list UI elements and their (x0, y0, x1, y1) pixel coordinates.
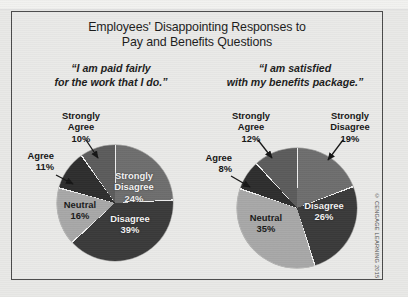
callout-value: 11% (8, 161, 54, 172)
callout-value: 8% (186, 163, 232, 174)
callout-value: 12% (222, 133, 280, 144)
callout-value: 10% (52, 133, 110, 144)
callout-text-1: Agree (186, 152, 232, 163)
leader-lines-benefits (200, 0, 390, 297)
slice-label-strongly-disagree: Strongly Disagree 24% (105, 170, 163, 204)
callout-strongly-disagree: Strongly Disagree 19% (319, 110, 381, 144)
callout-strongly-agree: Strongly Agree 12% (222, 110, 280, 144)
pie-chart-benefits: “I am satisfied with my benefits package… (200, 0, 390, 297)
leader-agree (231, 176, 250, 187)
callout-text-2: Agree (52, 121, 110, 132)
slice-label-value: 35% (240, 223, 292, 234)
slice-label-value: 24% (105, 193, 163, 204)
callout-value: 19% (319, 133, 381, 144)
slice-label-neutral: Neutral 35% (240, 212, 292, 235)
pie-chart-pay-plot: Strongly Disagree 24% Disagree 39% Neutr… (16, 0, 206, 297)
callout-text-1: Strongly (222, 110, 280, 121)
pie-chart-pay: “I am paid fairly for the work that I do… (16, 0, 206, 297)
callout-agree: Agree 8% (186, 152, 232, 175)
callout-strongly-agree: Strongly Agree 10% (52, 110, 110, 144)
slice-label-text-1: Disagree (101, 213, 159, 224)
callout-text-1: Agree (8, 150, 54, 161)
slice-label-value: 16% (58, 210, 102, 221)
leader-agree (56, 175, 73, 184)
callout-text-1: Strongly (52, 110, 110, 121)
slice-label-value: 39% (101, 224, 159, 235)
callout-text-1: Strongly (319, 110, 381, 121)
pie-chart-benefits-plot: Disagree 26% Neutral 35% Agree 8% Strong… (200, 0, 390, 297)
callout-text-2: Agree (222, 121, 280, 132)
slice-label-text-1: Disagree (295, 200, 353, 211)
callout-agree: Agree 11% (8, 150, 54, 173)
slice-label-text-1: Neutral (58, 199, 102, 210)
copyright-credit: © CENGAGE LEARNING 2015 (366, 193, 380, 277)
slice-label-text-1: Neutral (240, 212, 292, 223)
slice-label-text-2: Disagree (105, 181, 163, 192)
figure-root: Employees' Disappointing Responses to Pa… (0, 0, 408, 297)
slice-label-value: 26% (295, 211, 353, 222)
slice-label-neutral: Neutral 16% (58, 199, 102, 222)
slice-label-disagree: Disagree 26% (295, 200, 353, 223)
slice-label-text-1: Strongly (105, 170, 163, 181)
slice-label-disagree: Disagree 39% (101, 213, 159, 236)
leader-lines-pay (16, 0, 206, 297)
callout-text-2: Disagree (319, 121, 381, 132)
